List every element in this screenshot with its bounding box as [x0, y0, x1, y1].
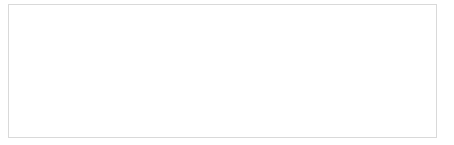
chart-panel-border: [8, 4, 437, 138]
chart-container: 0100200300400500600700 -2020601001401802…: [0, 0, 454, 145]
